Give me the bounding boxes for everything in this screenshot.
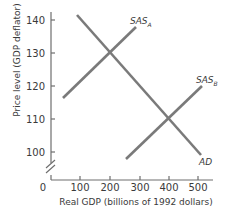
sas-a-label: SASA bbox=[130, 16, 152, 28]
y-axis-title: Price level (GDP deflator) bbox=[12, 3, 22, 116]
sas-b-label: SASB bbox=[196, 75, 218, 87]
sas-a-curve bbox=[63, 27, 136, 98]
y-tick-label-130: 130 bbox=[26, 48, 45, 59]
x-tick-label-400: 400 bbox=[159, 182, 178, 193]
y-tick-label-110: 110 bbox=[26, 114, 45, 125]
x-tick-label-0: 0 bbox=[40, 182, 46, 193]
x-axis-title: Real GDP (billions of 1992 dollars) bbox=[59, 197, 212, 207]
ad-label: AD bbox=[198, 157, 212, 167]
x-tick-label-500: 500 bbox=[188, 182, 207, 193]
chart-canvas: 140 130 120 110 100 0 100 200 300 400 50… bbox=[0, 0, 229, 219]
ad-curve bbox=[77, 15, 201, 155]
sas-b-curve bbox=[126, 86, 202, 159]
x-tick-label-300: 300 bbox=[130, 182, 149, 193]
x-tick-label-200: 200 bbox=[100, 182, 119, 193]
y-tick-label-100: 100 bbox=[26, 147, 45, 158]
y-tick-label-120: 120 bbox=[26, 81, 45, 92]
x-tick-label-100: 100 bbox=[70, 182, 89, 193]
y-tick-label-140: 140 bbox=[26, 15, 45, 26]
